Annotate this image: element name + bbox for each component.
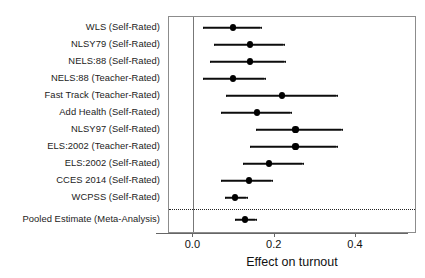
ci-upper-cap <box>303 162 304 164</box>
ci-upper-cap <box>272 179 273 181</box>
x-axis-tick-label: 0.4 <box>347 238 362 250</box>
forest-row <box>169 89 415 103</box>
forest-row <box>169 123 415 137</box>
plot-panel <box>168 16 416 233</box>
ci-upper-cap <box>284 43 285 45</box>
study-label: ELS:2002 (Teacher-Rated) <box>47 141 160 151</box>
ci-upper-cap <box>337 94 338 96</box>
x-axis: Effect on turnout 0.00.20.4 <box>168 233 416 278</box>
ci-upper-cap <box>247 196 248 198</box>
study-label: NLSY79 (Self-Rated) <box>71 39 160 49</box>
ci-lower-cap <box>256 128 257 130</box>
estimate-point <box>279 92 285 98</box>
study-label: Pooled Estimate (Meta-Analysis) <box>22 214 160 224</box>
ci-lower-cap <box>250 145 251 147</box>
forest-row <box>169 140 415 154</box>
ci-lower-cap <box>203 26 204 28</box>
ci-upper-cap <box>285 60 286 62</box>
estimate-point <box>247 58 253 64</box>
ci-lower-cap <box>226 94 227 96</box>
ci-upper-cap <box>291 111 292 113</box>
estimate-point <box>292 126 298 132</box>
ci-lower-cap <box>221 179 222 181</box>
study-label: Add Health (Self-Rated) <box>59 107 160 117</box>
estimate-point <box>230 75 236 81</box>
forest-row <box>169 21 415 35</box>
study-label-column: WLS (Self-Rated)NLSY79 (Self-Rated)NELS:… <box>0 16 164 233</box>
estimate-point <box>242 216 248 222</box>
x-axis-tick <box>192 233 193 237</box>
forest-row <box>169 55 415 69</box>
estimate-point <box>230 24 236 30</box>
forest-row <box>169 38 415 52</box>
estimate-point <box>254 109 260 115</box>
ci-lower-cap <box>221 111 222 113</box>
x-axis-tick-label: 0.2 <box>266 238 281 250</box>
x-axis-tick <box>274 233 275 237</box>
ci-upper-cap <box>261 26 262 28</box>
ci-lower-cap <box>243 162 244 164</box>
ci-lower-cap <box>214 43 215 45</box>
estimate-point <box>247 41 253 47</box>
study-label: NLSY97 (Self-Rated) <box>71 124 160 134</box>
ci-upper-cap <box>342 128 343 130</box>
study-label: Fast Track (Teacher-Rated) <box>45 90 160 100</box>
ci-upper-cap <box>337 145 338 147</box>
x-axis-title: Effect on turnout <box>168 255 416 269</box>
ci-lower-cap <box>225 196 226 198</box>
study-label: WCPSS (Self-Rated) <box>72 192 160 202</box>
x-axis-line <box>156 233 408 234</box>
study-label: NELS:88 (Self-Rated) <box>68 56 160 66</box>
forest-row <box>169 213 415 227</box>
ci-upper-cap <box>256 218 257 220</box>
estimate-point <box>292 143 298 149</box>
x-axis-tick-label: 0.0 <box>185 238 200 250</box>
pooled-separator-line <box>169 209 415 210</box>
x-axis-tick <box>355 233 356 237</box>
confidence-interval-bar <box>243 162 302 164</box>
confidence-interval-bar <box>256 128 342 130</box>
estimate-point <box>232 194 238 200</box>
ci-upper-cap <box>265 77 266 79</box>
forest-row <box>169 174 415 188</box>
study-label: ELS:2002 (Self-Rated) <box>65 158 160 168</box>
ci-lower-cap <box>203 77 204 79</box>
study-label: NELS:88 (Teacher-Rated) <box>51 73 160 83</box>
forest-row <box>169 106 415 120</box>
ci-lower-cap <box>210 60 211 62</box>
forest-plot-figure: WLS (Self-Rated)NLSY79 (Self-Rated)NELS:… <box>0 0 425 278</box>
estimate-point <box>266 160 272 166</box>
forest-row <box>169 72 415 86</box>
forest-row <box>169 191 415 205</box>
forest-row <box>169 157 415 171</box>
estimate-point <box>246 177 252 183</box>
study-label: CCES 2014 (Self-Rated) <box>56 175 160 185</box>
ci-lower-cap <box>235 218 236 220</box>
study-label: WLS (Self-Rated) <box>86 22 160 32</box>
